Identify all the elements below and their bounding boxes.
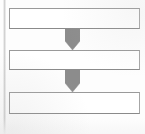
process-box-2[interactable] [9,50,140,70]
scan-artifact-bottom-edge [0,118,145,134]
process-box-2-label [10,51,139,69]
process-box-3-label [10,93,139,113]
process-box-1-label [10,9,139,28]
scan-artifact-left-edge [3,0,6,134]
flowchart-canvas [0,0,145,134]
arrow-down-icon-1 [65,28,80,50]
arrow-down-icon-2 [65,69,80,92]
process-box-3[interactable] [9,92,140,114]
process-box-1[interactable] [9,8,140,29]
